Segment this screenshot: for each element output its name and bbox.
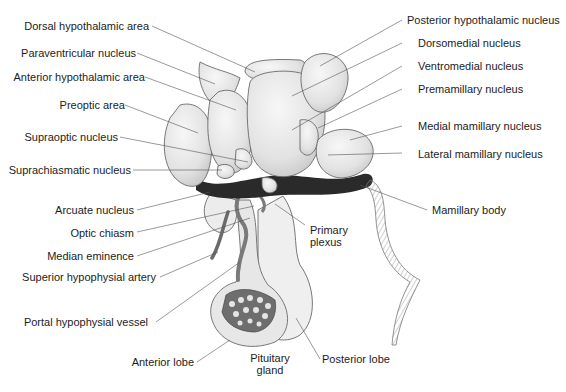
label-dorsomedial-nucleus: Dorsomedial nucleus xyxy=(418,37,521,49)
label-primary-plexus-line2: plexus xyxy=(310,236,348,248)
label-primary-plexus-line1: Primary xyxy=(310,224,348,236)
label-ventromedial-nucleus: Ventromedial nucleus xyxy=(418,60,523,72)
label-preoptic-area: Preoptic area xyxy=(60,99,125,111)
label-portal-hypophysial-vessel: Portal hypophysial vessel xyxy=(24,316,148,328)
label-primary-plexus: Primary plexus xyxy=(310,224,348,248)
label-lateral-mamillary-nucleus: Lateral mamillary nucleus xyxy=(418,148,543,160)
label-anterior-hypothalamic-area: Anterior hypothalamic area xyxy=(14,71,145,83)
label-medial-mamillary-nucleus: Medial mamillary nucleus xyxy=(418,120,542,132)
label-posterior-lobe: Posterior lobe xyxy=(322,353,390,365)
label-premamillary-nucleus: Premamillary nucleus xyxy=(418,83,523,95)
label-mamillary-body: Mamillary body xyxy=(432,204,506,216)
label-median-eminence: Median eminence xyxy=(47,250,134,262)
label-pituitary-gland: Pituitary gland xyxy=(240,352,300,376)
label-dorsal-hypothalamic-area: Dorsal hypothalamic area xyxy=(24,20,149,32)
label-pituitary-gland-line2: gland xyxy=(240,364,300,376)
hypothalamic-nuclei xyxy=(164,54,373,193)
label-optic-chiasm: Optic chiasm xyxy=(70,227,134,239)
label-pituitary-gland-line1: Pituitary xyxy=(240,352,300,364)
label-arcuate-nucleus: Arcuate nucleus xyxy=(55,204,134,216)
label-posterior-hypothalamic-nucleus: Posterior hypothalamic nucleus xyxy=(407,14,560,26)
label-supraoptic-nucleus: Supraoptic nucleus xyxy=(24,131,118,143)
label-suprachiasmatic-nucleus: Suprachiasmatic nucleus xyxy=(9,164,131,176)
label-superior-hypophysial-artery: Superior hypophysial artery xyxy=(22,271,156,283)
brainstem-outline xyxy=(366,180,420,345)
label-anterior-lobe: Anterior lobe xyxy=(132,356,194,368)
label-paraventricular-nucleus: Paraventricular nucleus xyxy=(21,47,136,59)
